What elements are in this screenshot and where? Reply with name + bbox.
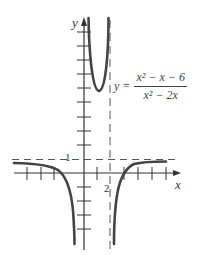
curve-middle-branch — [89, 18, 109, 91]
equation-label: y = x² − x − 6 x² − 2x — [114, 70, 187, 103]
graph-canvas — [0, 0, 208, 255]
x-axis-arrow-icon — [173, 170, 181, 176]
x-axis-label: x — [175, 178, 181, 191]
equation-numerator: x² − x − 6 — [134, 70, 186, 87]
tick-label-two: 2 — [104, 183, 110, 194]
y-axis-arrow-icon — [81, 17, 87, 26]
tick-label-one: 1 — [65, 152, 71, 163]
y-axis-label: y — [72, 16, 78, 29]
x-axis — [14, 167, 181, 180]
equation-fraction: x² − x − 6 x² − 2x — [134, 70, 186, 103]
equation-lhs: y = — [114, 79, 130, 94]
curve-right-branch — [114, 162, 166, 245]
curve-left-branch — [14, 163, 75, 244]
equation-denominator: x² − 2x — [143, 87, 177, 103]
